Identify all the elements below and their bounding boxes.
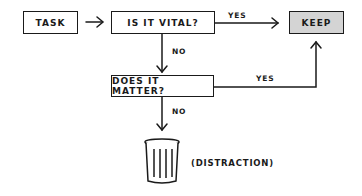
edge-vital-yes-label: YES [228, 11, 246, 20]
edge-vital-no-label: NO [172, 47, 186, 56]
node-does-it-matter: DOES IT MATTER? [111, 75, 214, 97]
node-vital-label: IS IT VITAL? [127, 18, 198, 28]
node-keep-label: KEEP [302, 18, 332, 28]
edge-matter-no-label: NO [172, 107, 186, 116]
node-task-label: TASK [36, 18, 66, 28]
node-keep: KEEP [289, 11, 344, 34]
node-distraction-label: (DISTRACTION) [191, 158, 274, 168]
trash-can-icon [145, 139, 179, 183]
node-is-it-vital: IS IT VITAL? [111, 11, 215, 34]
edge-matter-yes-label: YES [256, 74, 274, 83]
node-matter-label: DOES IT MATTER? [112, 76, 213, 96]
node-task: TASK [23, 11, 78, 34]
